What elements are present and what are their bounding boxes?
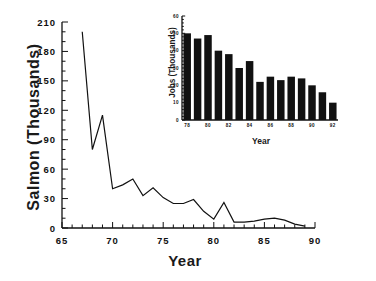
inset-x-tick-label: 82 <box>226 123 232 128</box>
main-x-tick-label: 90 <box>309 235 322 246</box>
main-y-tick-label: 60 <box>43 164 56 175</box>
inset-bar <box>215 51 222 120</box>
main-y-axis-title: Salmon (Thousands) <box>25 27 43 227</box>
inset-bar <box>308 85 315 120</box>
main-x-tick-label: 75 <box>157 235 170 246</box>
inset-bar <box>329 103 336 120</box>
inset-bar <box>277 80 284 120</box>
chart-figure: Salmon (Thousands) 030609012015018021065… <box>0 0 376 281</box>
inset-bar <box>256 82 263 120</box>
inset-bar <box>287 77 294 120</box>
main-y-tick-label: 90 <box>43 134 56 145</box>
main-x-tick-label: 85 <box>258 235 271 246</box>
inset-x-tick-label: 88 <box>288 123 294 128</box>
inset-bar <box>319 92 326 120</box>
inset-x-tick-label: 86 <box>267 123 273 128</box>
main-x-axis-title: Year <box>95 252 275 269</box>
inset-bar <box>204 35 211 120</box>
inset-bar-chart-svg: 01020304050607880828486889092 <box>158 10 358 140</box>
inset-bar <box>267 77 274 120</box>
inset-bar <box>246 61 253 120</box>
main-x-tick-label: 65 <box>56 235 69 246</box>
main-y-tick-label: 30 <box>43 193 56 204</box>
inset-bar-chart: Jobs (Thousands) 01020304050607880828486… <box>158 10 358 150</box>
inset-bar <box>235 68 242 120</box>
inset-bar <box>298 78 305 120</box>
main-x-tick-label: 70 <box>106 235 119 246</box>
inset-x-tick-label: 84 <box>247 123 253 128</box>
inset-y-tick-label: 0 <box>176 118 179 123</box>
inset-bar <box>225 54 232 120</box>
inset-x-tick-label: 92 <box>330 123 336 128</box>
inset-y-axis-title: Jobs (Thousands) <box>168 13 177 113</box>
inset-bar <box>194 39 201 120</box>
inset-x-tick-label: 80 <box>205 123 211 128</box>
inset-x-tick-label: 78 <box>184 123 190 128</box>
inset-bar <box>183 33 190 120</box>
inset-x-tick-label: 90 <box>309 123 315 128</box>
main-y-tick-label: 210 <box>37 17 56 28</box>
inset-x-axis-title: Year <box>186 136 336 146</box>
main-y-tick-label: 0 <box>50 223 56 234</box>
main-x-tick-label: 80 <box>208 235 221 246</box>
